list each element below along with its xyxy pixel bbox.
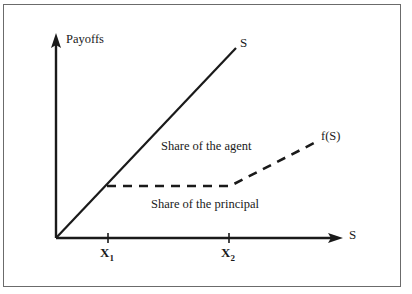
- annotation-share-of-the-principal: Share of the principal: [151, 198, 259, 211]
- x-tick-label-1-subscript: 1: [109, 253, 114, 263]
- figure-root: Payoffs S f(S) S Share of the agent Shar…: [0, 0, 412, 294]
- solid-line-label: S: [240, 36, 247, 49]
- dashed-line-label: f(S): [321, 130, 340, 143]
- x-tick-label-1: X1: [100, 246, 114, 263]
- x-tick-label-2-subscript: 2: [230, 253, 235, 263]
- x-tick-label-1-base: X: [100, 245, 109, 260]
- x-tick-label-2-base: X: [221, 245, 230, 260]
- x-axis-label: S: [349, 228, 356, 241]
- annotation-share-of-the-agent: Share of the agent: [161, 140, 252, 153]
- y-axis-label: Payoffs: [66, 33, 104, 46]
- x-tick-label-2: X2: [221, 246, 235, 263]
